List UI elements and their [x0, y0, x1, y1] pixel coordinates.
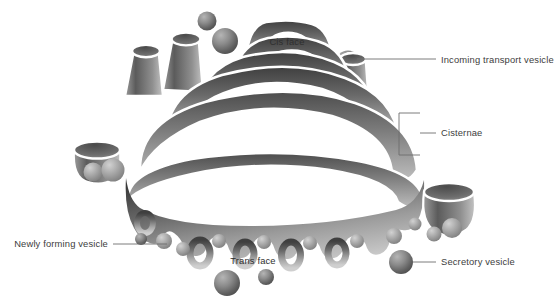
bud-tip [212, 234, 226, 248]
golgi-illustration: Incoming transport vesicle Cisternae New… [0, 0, 555, 302]
cisterna [128, 153, 423, 208]
bud-tip [409, 218, 422, 231]
label-incoming-transport-vesicle: Incoming transport vesicle [441, 54, 554, 65]
secretory-vesicle-sphere [442, 218, 462, 238]
label-cisternae: Cisternae [441, 127, 482, 138]
transport-vesicle-sphere [212, 28, 238, 54]
secretory-vesicle-sphere [427, 227, 442, 242]
bud-tip [350, 234, 364, 248]
label-secretory-vesicle: Secretory vesicle [441, 256, 515, 267]
left-open-vesicle-group [74, 142, 125, 184]
transport-vesicle-sphere [198, 12, 217, 31]
transport-vesicle-sphere [102, 159, 125, 182]
transport-vesicle-sphere [84, 163, 103, 182]
secretory-vesicle-sphere [389, 250, 413, 274]
bud-tip [257, 235, 271, 249]
bud-tip [303, 236, 317, 250]
cisterna-tubule-left-2 [163, 33, 203, 92]
label-trans-face: Trans face [230, 255, 275, 266]
bud-tip [176, 242, 190, 256]
released-vesicle-sphere [258, 269, 274, 285]
right-open-vesicle-group [423, 183, 475, 242]
cisterna-tubule-left [125, 45, 163, 96]
released-vesicle-sphere [214, 270, 240, 296]
newly-forming-vesicle-bud [156, 233, 172, 249]
golgi-diagram-figure: Incoming transport vesicle Cisternae New… [0, 0, 555, 302]
open-vesicle-rim [424, 183, 474, 201]
trans-face-body [126, 178, 424, 259]
open-vesicle-rim [74, 142, 120, 159]
bud-tip [386, 228, 402, 244]
label-cis-face: Cis face [269, 36, 304, 47]
label-newly-forming-vesicle: Newly forming vesicle [14, 238, 108, 249]
newly-forming-vesicle-sphere [135, 233, 147, 245]
